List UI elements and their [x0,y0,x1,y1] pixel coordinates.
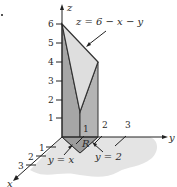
y-tick-1: 1 [83,124,89,134]
z-tick-4: 4 [48,57,54,67]
x-tick-3: 3 [18,161,24,171]
z-tick-3: 3 [48,76,54,86]
solid-diagram: z 6 5 4 3 2 1 y 1 2 3 x 1 2 3 z = 6 − x … [0,0,177,187]
x-tick-1: 1 [39,143,45,153]
z-axis-arrow-icon [60,4,64,10]
surface-pointer [88,31,106,45]
z-tick-6: 6 [48,19,54,29]
z-ticks [56,24,62,118]
x-axis-label: x [7,178,13,187]
surface-equation-label: z = 6 − x − y [75,16,143,27]
region-label: R [81,138,90,149]
z-tick-5: 5 [48,38,54,48]
z-tick-1: 1 [48,113,54,123]
y-tick-2: 2 [102,120,108,130]
y-axis-arrow-icon [162,135,168,139]
x-tick-2: 2 [28,152,34,162]
y-tick-3: 3 [125,120,131,130]
y-axis-label: y [168,132,175,143]
stray-mark [1,14,3,16]
z-tick-2: 2 [48,95,54,105]
line-y2-label: y = 2 [94,151,122,162]
z-axis-label: z [66,2,73,13]
line-yx-label: y = x [47,154,74,165]
